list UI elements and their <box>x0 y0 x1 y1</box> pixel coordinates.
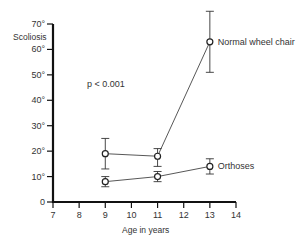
y-axis-ticks: 010°20°30°40°50°60°70° <box>31 19 53 207</box>
series-layer <box>101 11 214 186</box>
p-value-annotation: p < 0.001 <box>87 79 125 89</box>
data-point-marker <box>155 153 161 159</box>
series-0 <box>101 11 214 169</box>
data-point-marker <box>102 179 108 185</box>
x-tick-label: 10 <box>126 210 136 220</box>
x-tick-label: 8 <box>77 210 82 220</box>
x-tick-label: 11 <box>153 210 162 220</box>
series-label-normal-wheel-chair: Normal wheel chair <box>218 37 295 47</box>
data-point-marker <box>207 163 213 169</box>
y-tick-label: 0 <box>40 197 45 207</box>
data-point-marker <box>102 151 108 157</box>
data-point-marker <box>207 39 213 45</box>
x-axis-title: Age in years <box>122 225 169 235</box>
y-tick-label: 50° <box>31 70 45 80</box>
x-tick-label: 7 <box>50 210 55 220</box>
series-line <box>105 42 210 156</box>
data-point-marker <box>155 174 161 180</box>
x-tick-label: 12 <box>179 210 189 220</box>
y-tick-label: 10° <box>31 172 45 182</box>
x-axis-ticks: 7891011121314 <box>50 202 241 220</box>
axes <box>52 24 236 203</box>
scoliosis-chart: 010°20°30°40°50°60°70° 7891011121314 Sco… <box>0 0 304 242</box>
y-tick-label: 70° <box>31 19 45 29</box>
y-axis-title: Scoliosis <box>13 32 47 42</box>
x-tick-label: 14 <box>231 210 241 220</box>
y-tick-label: 40° <box>31 95 45 105</box>
series-label-orthoses: Orthoses <box>218 161 255 171</box>
y-tick-label: 20° <box>31 146 45 156</box>
x-tick-label: 9 <box>103 210 108 220</box>
y-tick-label: 60° <box>31 44 45 54</box>
y-tick-label: 30° <box>31 121 45 131</box>
x-tick-label: 13 <box>205 210 215 220</box>
